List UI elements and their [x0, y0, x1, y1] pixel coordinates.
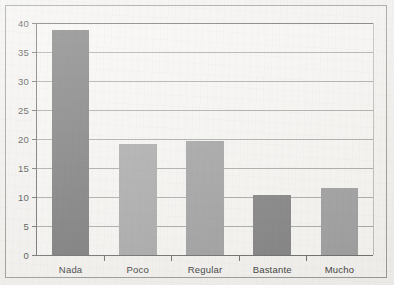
y-axis-tick-label: 10: [18, 192, 29, 203]
y-tick-mark-15: [32, 168, 37, 169]
bar-chart-figure: 0510152025303540NadaPocoRegularBastanteM…: [0, 0, 394, 285]
y-axis-tick-label: 40: [18, 18, 29, 29]
plot-right-edge: [373, 23, 374, 255]
bar-mucho: [321, 188, 359, 255]
bar-poco: [119, 144, 157, 255]
y-tick-mark-35: [32, 52, 37, 53]
x-axis-tick-label-regular: Regular: [188, 264, 223, 275]
bar-regular: [186, 141, 224, 255]
y-tick-mark-30: [32, 81, 37, 82]
plot-wrapper: 0510152025303540NadaPocoRegularBastanteM…: [0, 0, 394, 285]
y-tick-mark-10: [32, 197, 37, 198]
x-axis-tick-label-nada: Nada: [59, 264, 83, 275]
x-tick-mark: [306, 255, 307, 261]
y-axis-tick-label: 30: [18, 76, 29, 87]
bar-nada: [52, 30, 90, 255]
y-tick-mark-25: [32, 110, 37, 111]
x-axis-tick-label-poco: Poco: [127, 264, 149, 275]
y-axis-tick-label: 15: [18, 163, 29, 174]
y-axis-tick-label: 5: [24, 221, 29, 232]
y-axis-tick-label: 35: [18, 47, 29, 58]
x-tick-mark: [171, 255, 172, 261]
y-tick-mark-40: [32, 23, 37, 24]
plot-area: 0510152025303540NadaPocoRegularBastanteM…: [36, 23, 373, 256]
gridline-y-40: [37, 23, 373, 24]
y-tick-mark-5: [32, 226, 37, 227]
x-tick-mark: [239, 255, 240, 261]
y-tick-mark-20: [32, 139, 37, 140]
x-axis-tick-label-mucho: Mucho: [325, 264, 355, 275]
y-axis-tick-label: 20: [18, 134, 29, 145]
y-tick-mark-0: [32, 255, 37, 256]
y-axis-tick-label: 0: [24, 250, 29, 261]
x-axis-tick-label-bastante: Bastante: [253, 264, 292, 275]
y-axis-tick-label: 25: [18, 105, 29, 116]
bar-bastante: [253, 195, 291, 255]
x-tick-mark: [104, 255, 105, 261]
